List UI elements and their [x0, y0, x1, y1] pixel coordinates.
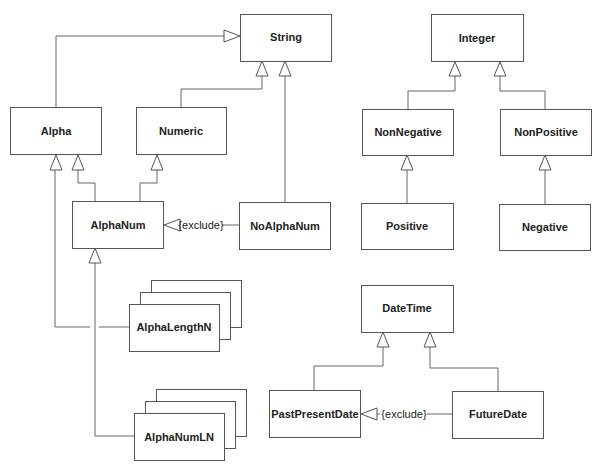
- generalization-arrow-icon: [256, 61, 268, 76]
- class-negative[interactable]: Negative: [500, 205, 591, 251]
- generalization-arrow-icon: [494, 62, 506, 76]
- class-string[interactable]: String: [241, 15, 332, 62]
- class-name: AlphaLengthN: [136, 321, 211, 333]
- generalization-arrow-icon: [151, 155, 163, 170]
- edge-alphanumln-alphanum: [95, 263, 134, 436]
- edge-futuredate-datetime: [430, 347, 498, 391]
- generalization-arrow-icon: [449, 62, 461, 76]
- class-name: Numeric: [159, 125, 203, 137]
- generalization-arrow-icon: [401, 155, 413, 170]
- class-pastpresentdate[interactable]: PastPresentDate: [270, 391, 361, 438]
- class-name: AlphaNum: [91, 219, 146, 231]
- edge-alphanum-alpha: [78, 170, 95, 201]
- class-name: DateTime: [382, 302, 431, 314]
- edge-alpha-string: [56, 36, 225, 107]
- generalization-arrow-icon: [89, 248, 101, 263]
- class-name: PastPresentDate: [271, 408, 358, 420]
- class-name: Integer: [459, 32, 496, 44]
- exclude-arrow-icon: [361, 408, 377, 420]
- edge-nonpositive-integer: [500, 76, 545, 109]
- class-name: FutureDate: [469, 408, 527, 420]
- exclude-constraint-label: {exclude}: [381, 408, 427, 420]
- class-name: String: [270, 31, 302, 43]
- class-alphanum[interactable]: AlphaNum: [73, 202, 164, 249]
- class-numeric[interactable]: Numeric: [137, 108, 227, 155]
- class-name: Alpha: [41, 125, 72, 137]
- class-name: AlphaNumLN: [144, 431, 214, 443]
- class-name: NonPositive: [514, 126, 578, 138]
- class-noalphanum[interactable]: NoAlphaNum: [240, 203, 331, 250]
- class-futuredate[interactable]: FutureDate: [453, 392, 544, 439]
- generalization-arrow-icon: [50, 155, 62, 170]
- exclude-constraint-label: {exclude}: [178, 219, 224, 231]
- generalization-arrow-icon: [72, 155, 84, 170]
- generalization-arrow-icon: [279, 61, 291, 76]
- edge-pastpresentdate-datetime: [314, 347, 383, 390]
- class-name: NoAlphaNum: [250, 220, 320, 232]
- generalization-arrow-icon: [424, 332, 436, 347]
- class-name: Positive: [386, 220, 428, 232]
- generalization-arrow-icon: [377, 332, 389, 347]
- class-datetime[interactable]: DateTime: [362, 286, 454, 333]
- class-positive[interactable]: Positive: [362, 204, 454, 250]
- class-nonnegative[interactable]: NonNegative: [363, 110, 454, 156]
- class-alpha[interactable]: Alpha: [11, 108, 102, 155]
- uml-class-diagram: {exclude} {exclude} String Integer Alpha…: [0, 0, 598, 469]
- class-name: Negative: [522, 221, 568, 233]
- class-alphalengthn[interactable]: AlphaLengthN: [130, 281, 242, 352]
- generalization-arrow-icon: [539, 155, 551, 170]
- generalization-arrow-icon: [224, 30, 240, 42]
- class-nonpositive[interactable]: NonPositive: [501, 110, 592, 156]
- edge-numeric-string: [181, 76, 262, 107]
- edge-nonnegative-integer: [408, 76, 455, 109]
- class-alphanumln[interactable]: AlphaNumLN: [135, 390, 247, 461]
- class-name: NonNegative: [374, 126, 441, 138]
- edge-alphanum-numeric: [140, 170, 157, 201]
- class-integer[interactable]: Integer: [432, 15, 524, 62]
